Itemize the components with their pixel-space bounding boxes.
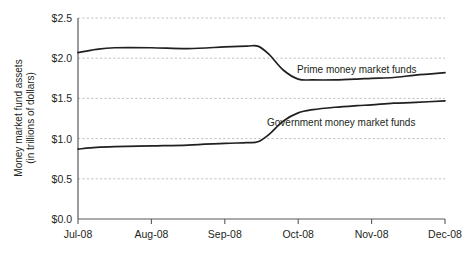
x-tick-marks xyxy=(78,219,445,224)
y-tick-label-1-0: $1.0 xyxy=(52,133,73,145)
x-tick-label-aug: Aug-08 xyxy=(134,228,168,240)
chart-figure: $2.5 $2.0 $1.5 $1.0 $0.5 $0.0 Jul-08 Aug… xyxy=(0,0,472,258)
y-tick-label-2-5: $2.5 xyxy=(52,12,73,24)
y-tick-label-0-0: $0.0 xyxy=(52,213,73,225)
gridlines xyxy=(78,18,445,179)
series-annotation-prime: Prime money market funds xyxy=(297,64,417,75)
y-tick-label-2-0: $2.0 xyxy=(52,52,73,64)
x-tick-label-jul: Jul-08 xyxy=(64,228,93,240)
x-tick-labels: Jul-08 Aug-08 Sep-08 Oct-08 Nov-08 Dec-0… xyxy=(64,228,462,240)
money-market-fund-assets-chart: $2.5 $2.0 $1.5 $1.0 $0.5 $0.0 Jul-08 Aug… xyxy=(0,0,472,258)
y-axis-title-line1: Money market fund assets xyxy=(13,59,24,176)
y-axis-title-line2: (in trillions of dollars) xyxy=(25,72,36,164)
y-tick-label-1-5: $1.5 xyxy=(52,92,73,104)
x-tick-label-dec: Dec-08 xyxy=(428,228,462,240)
x-tick-label-sep: Sep-08 xyxy=(208,228,242,240)
y-axis-title: Money market fund assets (in trillions o… xyxy=(13,59,36,176)
y-tick-label-0-5: $0.5 xyxy=(52,173,73,185)
x-tick-label-oct: Oct-08 xyxy=(282,228,314,240)
x-tick-label-nov: Nov-08 xyxy=(355,228,389,240)
y-tick-labels: $2.5 $2.0 $1.5 $1.0 $0.5 $0.0 xyxy=(52,12,73,225)
series-annotation-government: Government money market funds xyxy=(267,117,415,128)
